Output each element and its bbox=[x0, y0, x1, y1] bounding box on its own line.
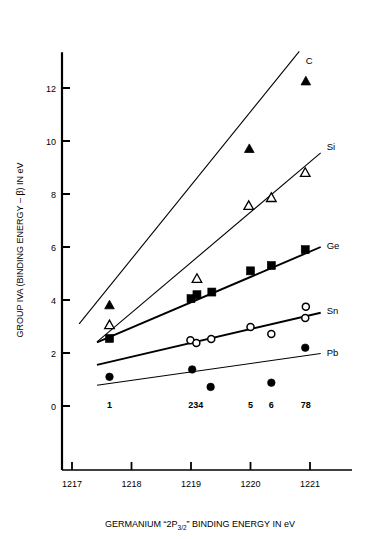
data-point-c bbox=[105, 300, 115, 309]
data-point-sn bbox=[208, 335, 215, 342]
data-point-ge bbox=[105, 334, 113, 342]
x-tick-label: 1219 bbox=[181, 479, 201, 489]
y-tick-label: 8 bbox=[51, 190, 56, 200]
chart-figure: CSiGeSnPb 02468101212171218121912201221 … bbox=[0, 0, 370, 539]
series-label-si: Si bbox=[327, 141, 335, 152]
data-markers-group bbox=[105, 76, 311, 390]
data-point-sn bbox=[268, 330, 275, 337]
x-tick-label: 1218 bbox=[121, 479, 141, 489]
fit-line-c bbox=[79, 51, 299, 323]
data-point-sn bbox=[193, 339, 200, 346]
x-axis-title: GERMANIUM “2P3/2” BINDING ENERGY IN eV bbox=[105, 519, 295, 531]
x-tick-label: 1221 bbox=[300, 479, 320, 489]
series-label-c: C bbox=[306, 55, 313, 66]
data-point-ge bbox=[301, 246, 309, 254]
data-point-pb bbox=[188, 366, 196, 374]
data-point-ge bbox=[267, 262, 275, 270]
series-label-sn: Sn bbox=[327, 305, 339, 316]
data-point-sn bbox=[247, 324, 254, 331]
scatter-plot-svg: CSiGeSnPb 02468101212171218121912201221 … bbox=[0, 0, 370, 539]
compound-index-label: 1 bbox=[107, 400, 112, 410]
data-point-si bbox=[192, 274, 202, 283]
point-index-labels-group: 12345678 bbox=[107, 400, 311, 410]
data-point-pb bbox=[207, 383, 215, 391]
data-point-si bbox=[244, 201, 254, 210]
data-point-c bbox=[245, 144, 255, 153]
fit-line-si bbox=[97, 153, 321, 342]
y-tick-label: 12 bbox=[46, 84, 56, 94]
data-point-ge bbox=[247, 267, 255, 275]
fit-line-pb bbox=[97, 354, 321, 386]
series-label-pb: Pb bbox=[327, 347, 339, 358]
data-point-pb bbox=[268, 379, 276, 387]
data-point-ge bbox=[193, 291, 201, 299]
fit-lines-group bbox=[79, 51, 321, 385]
data-point-pb bbox=[106, 373, 114, 381]
series-label-ge: Ge bbox=[327, 240, 340, 251]
data-point-pb bbox=[301, 344, 309, 352]
y-tick-label: 10 bbox=[46, 137, 56, 147]
data-point-ge bbox=[208, 288, 216, 296]
compound-index-label: 78 bbox=[301, 400, 311, 410]
y-tick-label: 2 bbox=[51, 349, 56, 359]
tick-labels-group: 02468101212171218121912201221 bbox=[46, 84, 320, 490]
x-tick-label: 1217 bbox=[62, 479, 82, 489]
data-point-c bbox=[301, 76, 311, 85]
series-labels-group: CSiGeSnPb bbox=[306, 55, 340, 358]
y-axis-title: GROUP IVA (BINDING ENERGY – β) IN eV bbox=[15, 162, 25, 337]
compound-index-label: 5 bbox=[248, 400, 253, 410]
data-point-sn bbox=[302, 315, 309, 322]
y-tick-label: 0 bbox=[51, 402, 56, 412]
data-point-sn bbox=[302, 303, 309, 310]
y-tick-label: 4 bbox=[51, 296, 56, 306]
compound-index-label: 234 bbox=[188, 400, 203, 410]
y-tick-label: 6 bbox=[51, 243, 56, 253]
compound-index-label: 6 bbox=[269, 400, 274, 410]
data-point-si bbox=[105, 320, 115, 329]
x-tick-label: 1220 bbox=[240, 479, 260, 489]
